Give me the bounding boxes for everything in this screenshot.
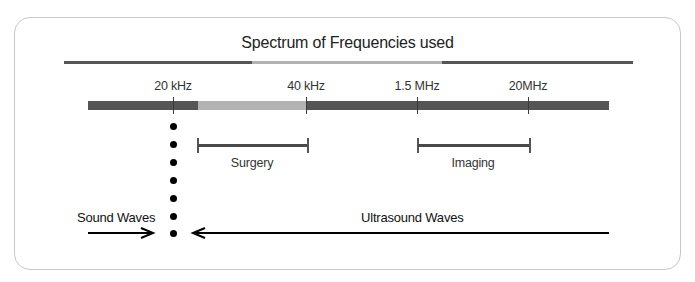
ultrasound-waves-arrow-icon — [193, 228, 609, 238]
wave-arrows — [0, 0, 695, 282]
sound-waves-arrow-icon — [88, 228, 153, 238]
